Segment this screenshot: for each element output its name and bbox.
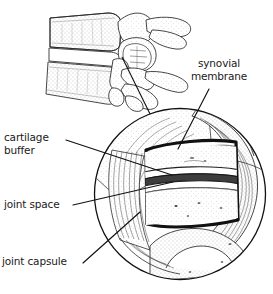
anatomy-illustration (0, 0, 273, 294)
anatomy-figure: cartilage buffer joint space joint capsu… (0, 0, 273, 294)
vertebrae-lateral-view (46, 13, 191, 111)
